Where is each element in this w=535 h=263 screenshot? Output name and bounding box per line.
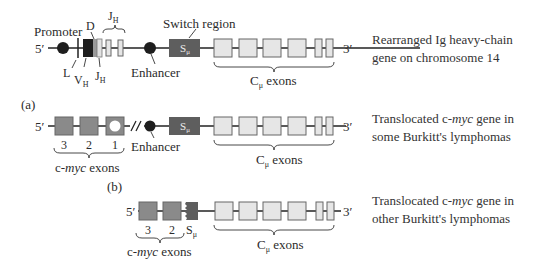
panel-b-translocation: (b) 5′ 3′ 3 2 Sμ c-myc exons Cμ exons Tr… <box>107 179 515 259</box>
panel-a-translocation: (a) 5′ Enhancer Sμ 3′ 3 2 1 c-myc exons … <box>21 97 515 175</box>
panel-b-description-line2: other Burkitt's lymphomas <box>372 211 510 226</box>
switch-region-label: Switch region <box>163 16 236 31</box>
c-mu-exons-label: Cμ exons <box>256 152 303 169</box>
jh-segment <box>118 40 123 56</box>
c-mu-exon <box>263 117 281 135</box>
d-pointer <box>91 32 94 39</box>
chromosome-break-icon <box>136 121 141 131</box>
five-prime-label: 5′ <box>35 41 45 56</box>
panel-b-tag: (b) <box>107 179 122 194</box>
myc-exon-2 <box>163 202 181 220</box>
panel-a-description-line1: Translocated c-myc gene in <box>372 111 515 126</box>
s-mu-label: Sμ <box>186 223 197 239</box>
myc-exon-2-label: 2 <box>169 223 175 237</box>
myc-exon-2-label: 2 <box>86 138 92 152</box>
c-mu-exon-small <box>326 117 333 135</box>
d-label: D <box>86 19 95 33</box>
c-mu-exon-small <box>315 117 322 135</box>
c-mu-exon <box>215 202 233 220</box>
panel-a-description-line2: some Burkitt's lymphomas <box>372 129 511 144</box>
leader-label: L <box>63 66 70 80</box>
c-mu-exon <box>214 117 232 135</box>
jh-segment-joined <box>97 39 102 57</box>
c-mu-exon-small <box>315 39 322 57</box>
myc-exon-3 <box>55 117 73 135</box>
c-mu-brace <box>214 62 334 72</box>
c-mu-exon <box>263 202 281 220</box>
enhancer-label: Enhancer <box>131 65 181 80</box>
chromosome-break-icon <box>131 121 136 131</box>
c-mu-exon <box>288 202 306 220</box>
jh-segment <box>106 40 111 56</box>
five-prime-label: 5′ <box>126 204 136 219</box>
myc-exons-label: c-myc exons <box>55 160 120 175</box>
c-mu-exon <box>239 117 257 135</box>
c-mu-exon <box>288 39 306 57</box>
three-prime-label: 3′ <box>343 204 353 219</box>
panel-a-tag: (a) <box>21 97 35 112</box>
promoter-label: Promoter <box>34 24 83 39</box>
c-mu-exon-small <box>327 202 334 220</box>
enhancer-pointer <box>151 132 154 138</box>
c-mu-exon <box>263 39 281 57</box>
vh-label: VH <box>74 73 89 89</box>
enhancer-icon <box>144 42 156 54</box>
enhancer-pointer <box>151 54 155 64</box>
c-mu-exon <box>288 117 306 135</box>
c-mu-exon-small <box>326 39 333 57</box>
c-mu-exons-label: Cμ exons <box>257 237 304 254</box>
three-prime-label: 3′ <box>343 41 353 56</box>
myc-exon-3-label: 3 <box>61 138 67 152</box>
truncated-switch-region-s-mu <box>185 202 198 220</box>
c-mu-exon <box>214 39 232 57</box>
promoter-icon <box>57 42 69 54</box>
myc-exons-label: c-myc exons <box>127 244 192 259</box>
panel-top-description-line1: Rearranged Ig heavy-chain <box>372 32 513 47</box>
panel-top-rearranged-igh: 5′ Promoter L D VH JH JH Enhancer Sμ Swi… <box>34 9 513 90</box>
panel-top-description-line2: gene on chromosome 14 <box>372 50 500 65</box>
jh-brace <box>103 25 125 33</box>
leader-pointer <box>72 60 76 68</box>
c-mu-brace <box>214 225 334 235</box>
vh-pointer <box>84 58 86 67</box>
igh-myc-translocation-diagram: 5′ Promoter L D VH JH JH Enhancer Sμ Swi… <box>0 0 535 263</box>
jh-bottom-pointer <box>99 58 100 67</box>
vh-segment <box>83 39 93 57</box>
enhancer-label: Enhancer <box>131 139 181 154</box>
myc-exon-3-label: 3 <box>145 223 151 237</box>
jh-bottom-label: JH <box>95 69 106 85</box>
five-prime-label: 5′ <box>35 119 45 134</box>
c-mu-exon <box>239 39 257 57</box>
panel-b-description-line1: Translocated c-myc gene in <box>372 193 515 208</box>
myc-exon-2 <box>80 117 98 135</box>
c-mu-brace <box>214 140 334 150</box>
jh-top-label: JH <box>108 9 119 25</box>
enhancer-icon <box>145 121 156 132</box>
c-mu-exon-small <box>316 202 323 220</box>
myc-exon-1-noncoding-icon <box>110 121 121 132</box>
myc-exon-1-label: 1 <box>112 138 118 152</box>
c-mu-exons-label: Cμ exons <box>250 73 297 90</box>
c-mu-exon <box>239 202 257 220</box>
three-prime-label: 3′ <box>343 119 353 134</box>
myc-exons-brace <box>136 233 184 243</box>
d-segment <box>93 39 97 57</box>
myc-exon-3 <box>139 202 157 220</box>
